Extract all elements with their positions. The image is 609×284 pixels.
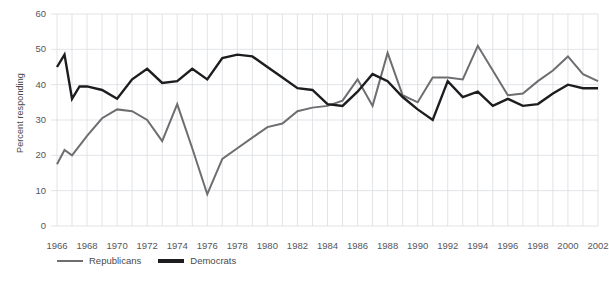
x-axis-tick-1998: 1998	[523, 241, 553, 251]
x-axis-tick-1996: 1996	[493, 241, 523, 251]
y-axis-tick-50: 50	[24, 44, 46, 54]
legend-entry-republicans: Republicans	[57, 256, 141, 266]
chart-legend: RepublicansDemocrats	[57, 256, 236, 266]
x-axis-tick-1972: 1972	[132, 241, 162, 251]
x-axis-tick-1982: 1982	[282, 241, 312, 251]
legend-label-republicans: Republicans	[89, 256, 141, 266]
legend-entry-democrats: Democrats	[158, 256, 236, 266]
x-axis-tick-2000: 2000	[553, 241, 583, 251]
x-axis-tick-1978: 1978	[222, 241, 252, 251]
y-axis-tick-0: 0	[24, 221, 46, 231]
legend-swatch-democrats	[158, 259, 184, 262]
x-axis-tick-1986: 1986	[343, 241, 373, 251]
x-axis-tick-1984: 1984	[313, 241, 343, 251]
x-axis-tick-1994: 1994	[463, 241, 493, 251]
x-axis-tick-1968: 1968	[72, 241, 102, 251]
gridlines	[51, 14, 598, 226]
y-axis-tick-20: 20	[24, 150, 46, 160]
x-axis-tick-1976: 1976	[192, 241, 222, 251]
x-axis-tick-1966: 1966	[42, 241, 72, 251]
legend-label-democrats: Democrats	[190, 256, 236, 266]
x-axis-tick-1990: 1990	[403, 241, 433, 251]
legend-swatch-republicans	[57, 260, 83, 263]
x-axis-tick-1970: 1970	[102, 241, 132, 251]
x-axis-tick-2002: 2002	[583, 241, 609, 251]
y-axis-tick-40: 40	[24, 80, 46, 90]
x-axis-tick-1988: 1988	[373, 241, 403, 251]
chart-figure: Percent responding 0102030405060 1966196…	[0, 0, 609, 284]
y-axis-tick-60: 60	[24, 9, 46, 19]
y-axis-tick-10: 10	[24, 186, 46, 196]
y-axis-tick-30: 30	[24, 115, 46, 125]
x-axis-tick-1974: 1974	[162, 241, 192, 251]
x-axis-tick-1980: 1980	[252, 241, 282, 251]
x-axis-tick-1992: 1992	[433, 241, 463, 251]
